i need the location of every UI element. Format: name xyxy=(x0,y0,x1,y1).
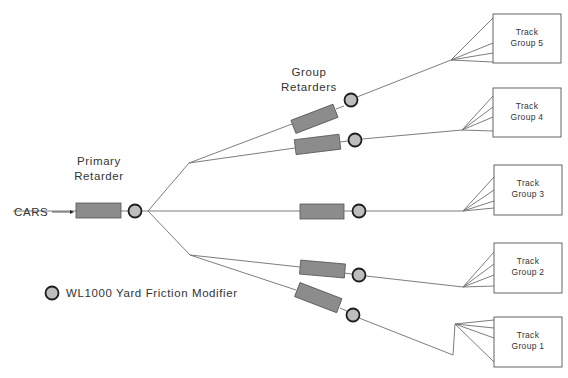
track-group-3-label-line1: Track xyxy=(517,178,540,188)
track-retarder-2-fm xyxy=(344,273,352,274)
legend-label: WL1000 Yard Friction Modifier xyxy=(66,287,238,299)
track-to-group-1-end xyxy=(453,324,455,355)
primary-retarder xyxy=(76,203,121,218)
cars-label: CARS xyxy=(14,206,48,218)
friction-modifier-legend-icon xyxy=(46,287,59,300)
track-retarder-1-fm xyxy=(340,308,347,311)
group-retarders-label-line1: Group xyxy=(292,66,327,78)
friction-modifier-5-icon xyxy=(345,94,358,107)
track-to-group-2 xyxy=(366,276,463,287)
track-retarder-4-fm xyxy=(340,141,348,142)
track-group-2-label-line2: Group 2 xyxy=(512,267,545,277)
group-retarder-3 xyxy=(300,204,344,219)
group-retarder-5 xyxy=(291,104,338,133)
legend: WL1000 Yard Friction Modifier xyxy=(46,287,238,300)
friction-modifier-1-icon xyxy=(347,309,360,322)
track-to-retarder-2 xyxy=(190,255,300,267)
branch-upper xyxy=(148,163,189,211)
primary-retarder-label-line2: Retarder xyxy=(74,170,124,182)
track-to-group-4 xyxy=(362,130,462,139)
track-group-4-label-line2: Group 4 xyxy=(511,112,544,122)
track-group-5-label-line2: Group 5 xyxy=(511,38,544,48)
track-group-4-label-line1: Track xyxy=(516,101,539,111)
track-group-5-label-line1: Track xyxy=(516,27,539,37)
friction-modifier-3-icon xyxy=(353,205,366,218)
group-retarder-2 xyxy=(299,260,345,278)
track-group-2: Track Group 2 xyxy=(494,243,562,293)
rail-yard-diagram: Track Group 5 Track Group 4 Track Group … xyxy=(0,0,568,378)
track-to-group-5 xyxy=(357,60,451,97)
track-group-5: Track Group 5 xyxy=(493,14,561,63)
track-group-3: Track Group 3 xyxy=(494,165,562,215)
primary-retarder-label-line1: Primary xyxy=(77,155,121,167)
fan-group-3 xyxy=(463,177,494,211)
fan-group-5 xyxy=(451,18,493,62)
fan-group-1 xyxy=(455,320,494,362)
friction-modifier-4-icon xyxy=(349,134,362,147)
track-retarder-5-fm xyxy=(336,106,344,109)
group-retarder-1 xyxy=(295,283,342,313)
track-to-group-1 xyxy=(359,318,453,355)
track-group-4: Track Group 4 xyxy=(493,88,561,137)
fan-group-2 xyxy=(463,252,494,287)
track-group-1-label-line2: Group 1 xyxy=(512,341,545,351)
track-to-retarder-5 xyxy=(189,124,292,163)
friction-modifier-2-icon xyxy=(353,269,366,282)
group-retarder-4 xyxy=(294,134,340,154)
track-to-retarder-4 xyxy=(189,148,295,163)
branch-lower xyxy=(148,211,190,255)
group-retarders-label-line2: Retarders xyxy=(281,81,337,93)
track-group-1: Track Group 1 xyxy=(494,317,562,367)
track-to-retarder-1 xyxy=(190,255,296,290)
track-group-2-label-line1: Track xyxy=(517,256,540,266)
track-group-1-label-line1: Track xyxy=(517,330,540,340)
friction-modifier-primary-icon xyxy=(129,205,142,218)
fan-group-4 xyxy=(462,96,493,131)
track-group-3-label-line2: Group 3 xyxy=(512,189,545,199)
